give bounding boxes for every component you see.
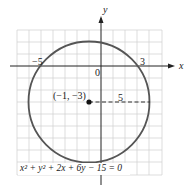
y-axis-arrow-icon bbox=[99, 16, 104, 23]
radius-label: 5 bbox=[118, 93, 123, 103]
origin-label: 0 bbox=[95, 68, 100, 78]
tick-label-left: −5 bbox=[32, 57, 43, 67]
y-axis-label: y bbox=[103, 5, 107, 15]
x-axis-label: x bbox=[179, 61, 183, 71]
x-axis-arrow-icon bbox=[168, 64, 175, 69]
center-point bbox=[86, 99, 91, 104]
center-label: (−1, −3) bbox=[53, 91, 86, 101]
tick-label-right: 3 bbox=[140, 57, 145, 67]
equation-label: x² + y² + 2x + 6y − 15 = 0 bbox=[20, 164, 122, 174]
